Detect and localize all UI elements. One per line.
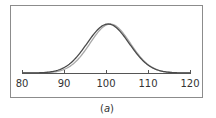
caption-close: )	[110, 103, 114, 114]
chart-figure: 8090100110120 (a)	[0, 0, 216, 118]
x-tick-label-80: 80	[16, 78, 29, 89]
caption: (a)	[100, 103, 114, 114]
curves-group	[22, 24, 190, 73]
curve-light	[22, 24, 190, 73]
x-tick-label-100: 100	[96, 78, 115, 89]
x-tick-label-120: 120	[180, 78, 199, 89]
x-tick-label-110: 110	[138, 78, 157, 89]
curve-dark	[22, 24, 190, 73]
x-tick-label-90: 90	[58, 78, 71, 89]
